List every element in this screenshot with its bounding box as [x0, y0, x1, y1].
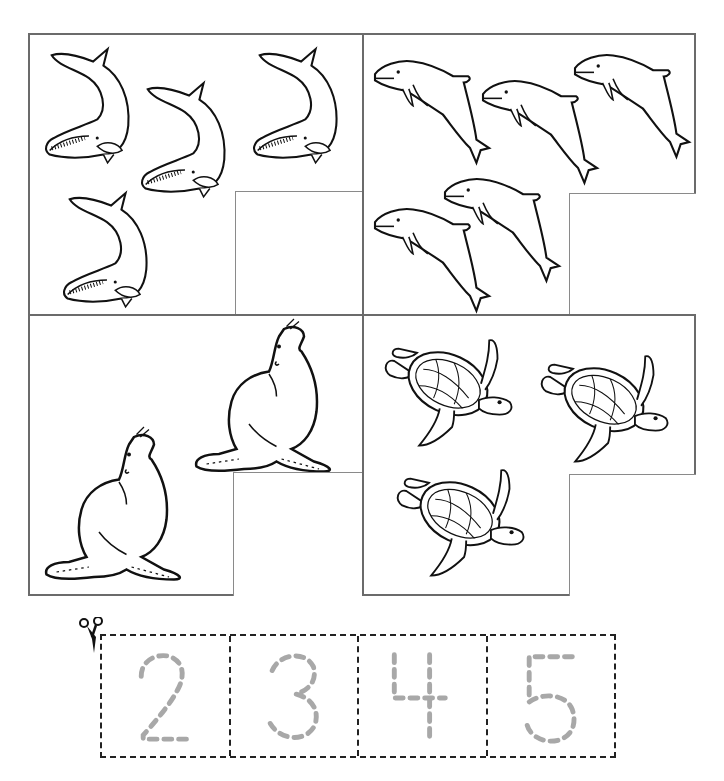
number-card-2[interactable]: 2	[102, 636, 231, 756]
panel-sea-turtles	[364, 316, 696, 596]
traced-digit-3	[231, 636, 358, 756]
dolphin-illustration	[370, 201, 492, 313]
panel-whales	[30, 35, 362, 314]
whale-illustration	[42, 47, 138, 167]
worksheet-grid	[28, 33, 696, 596]
sea-turtle-illustration	[382, 338, 514, 450]
whale-illustration	[250, 47, 346, 167]
panel-sea-lions	[30, 316, 362, 596]
answer-box[interactable]	[235, 191, 362, 314]
sea-lion-illustration	[42, 432, 186, 582]
panel-dolphins	[364, 35, 696, 314]
whale-illustration	[138, 81, 234, 201]
answer-box[interactable]	[569, 474, 696, 596]
cutout-number-strip: 2 3 4 5	[100, 634, 616, 758]
dolphin-illustration	[370, 53, 492, 165]
sea-turtle-illustration	[394, 468, 526, 580]
whale-illustration	[60, 191, 156, 311]
traced-digit-4	[359, 636, 486, 756]
traced-digit-2	[102, 636, 229, 756]
sea-lion-illustration	[192, 324, 336, 474]
answer-box[interactable]	[233, 472, 362, 596]
number-card-5[interactable]: 5	[488, 636, 615, 756]
number-card-3[interactable]: 3	[231, 636, 360, 756]
traced-digit-5	[488, 636, 615, 756]
dolphin-illustration	[570, 47, 692, 159]
number-card-4[interactable]: 4	[359, 636, 488, 756]
answer-box[interactable]	[569, 193, 696, 314]
sea-turtle-illustration	[538, 354, 670, 466]
